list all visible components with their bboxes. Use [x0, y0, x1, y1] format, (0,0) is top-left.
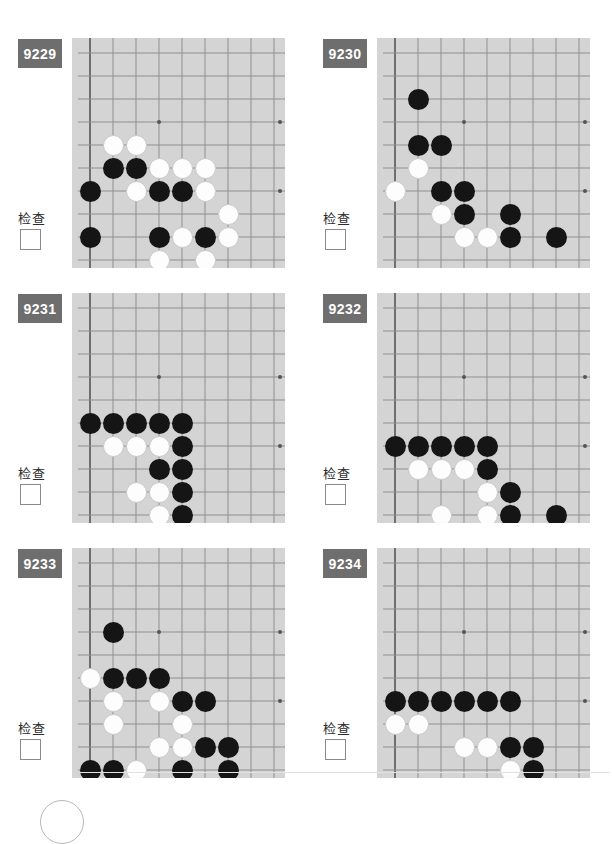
check-checkbox[interactable] — [325, 739, 346, 760]
problem-label-column: 9230检查 — [315, 36, 377, 276]
problem-id-badge: 9233 — [18, 549, 62, 578]
check-checkbox[interactable] — [20, 484, 41, 505]
black-stone — [149, 413, 170, 434]
white-stone — [408, 459, 429, 480]
black-stone — [500, 482, 521, 503]
white-stone — [218, 227, 239, 248]
check-label: 检查 — [323, 463, 351, 482]
footer-divider — [80, 772, 610, 773]
black-stone — [408, 89, 429, 110]
problem-id-badge: 9232 — [323, 294, 367, 323]
black-stone — [408, 436, 429, 457]
black-stone — [103, 760, 124, 779]
go-board[interactable] — [377, 38, 590, 268]
black-stone — [172, 691, 193, 712]
black-stone — [218, 737, 239, 758]
black-stone — [149, 668, 170, 689]
black-stone — [103, 158, 124, 179]
black-stone — [103, 668, 124, 689]
black-stone — [477, 459, 498, 480]
black-stone — [431, 135, 452, 156]
black-stone — [500, 691, 521, 712]
white-stone — [149, 737, 170, 758]
black-stone — [477, 436, 498, 457]
black-stone — [523, 737, 544, 758]
check-label: 检查 — [18, 208, 46, 227]
black-stone — [126, 413, 147, 434]
black-stone — [385, 436, 406, 457]
go-problem-9232: 9232检查 — [315, 291, 592, 531]
black-stone — [454, 436, 475, 457]
black-stone — [500, 737, 521, 758]
go-board[interactable] — [72, 548, 285, 778]
white-stone — [126, 482, 147, 503]
go-board[interactable] — [377, 548, 590, 778]
white-stone — [172, 737, 193, 758]
check-checkbox[interactable] — [20, 229, 41, 250]
problem-label-column: 9234检查 — [315, 546, 377, 786]
black-stone — [103, 413, 124, 434]
go-problem-9233: 9233检查 — [10, 546, 287, 786]
problem-label-column: 9231检查 — [10, 291, 72, 531]
go-board[interactable] — [72, 293, 285, 523]
problem-id-badge: 9234 — [323, 549, 367, 578]
check-label: 检查 — [18, 718, 46, 737]
white-stone — [172, 158, 193, 179]
black-stone — [500, 204, 521, 225]
black-stone — [80, 760, 101, 779]
white-stone — [149, 436, 170, 457]
check-checkbox[interactable] — [325, 484, 346, 505]
check-checkbox[interactable] — [325, 229, 346, 250]
problem-id-badge: 9231 — [18, 294, 62, 323]
black-stone — [172, 413, 193, 434]
check-label: 检查 — [18, 463, 46, 482]
white-stone — [431, 204, 452, 225]
problem-label-column: 9233检查 — [10, 546, 72, 786]
check-label: 检查 — [323, 718, 351, 737]
white-stone — [454, 459, 475, 480]
white-stone — [477, 227, 498, 248]
black-stone — [172, 482, 193, 503]
white-stone — [149, 482, 170, 503]
black-stone — [477, 691, 498, 712]
white-stone — [80, 668, 101, 689]
white-stone — [103, 436, 124, 457]
white-stone — [172, 714, 193, 735]
black-stone — [195, 737, 216, 758]
footer-circle-mark — [40, 800, 84, 844]
black-stone — [500, 505, 521, 524]
white-stone — [500, 760, 521, 779]
go-board[interactable] — [72, 38, 285, 268]
black-stone — [149, 227, 170, 248]
white-stone — [408, 714, 429, 735]
go-board[interactable] — [377, 293, 590, 523]
black-stone — [431, 436, 452, 457]
black-stone — [80, 413, 101, 434]
white-stone — [431, 459, 452, 480]
black-stone — [454, 204, 475, 225]
black-stone — [172, 459, 193, 480]
black-stone — [500, 227, 521, 248]
black-stone — [172, 181, 193, 202]
check-checkbox[interactable] — [20, 739, 41, 760]
white-stone — [126, 135, 147, 156]
white-stone — [195, 250, 216, 269]
black-stone — [546, 505, 567, 524]
white-stone — [454, 227, 475, 248]
black-stone — [149, 181, 170, 202]
black-stone — [80, 227, 101, 248]
problem-label-column: 9232检查 — [315, 291, 377, 531]
white-stone — [149, 158, 170, 179]
white-stone — [126, 181, 147, 202]
black-stone — [431, 691, 452, 712]
white-stone — [385, 714, 406, 735]
go-problem-9229: 9229检查 — [10, 36, 287, 276]
go-problem-9230: 9230检查 — [315, 36, 592, 276]
black-stone — [103, 622, 124, 643]
white-stone — [149, 505, 170, 524]
black-stone — [195, 227, 216, 248]
black-stone — [218, 760, 239, 779]
black-stone — [546, 227, 567, 248]
problem-id-badge: 9229 — [18, 39, 62, 68]
